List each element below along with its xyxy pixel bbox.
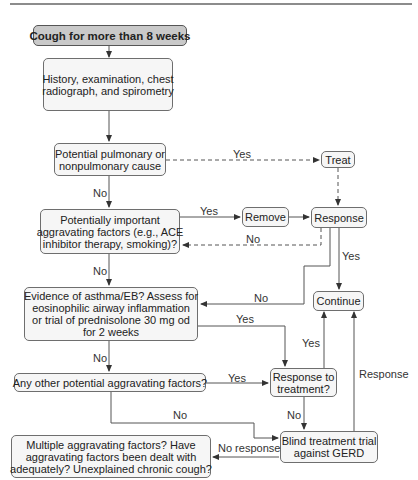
node-text: Response to xyxy=(273,371,335,383)
edge-label-pulmonary-yes: Yes xyxy=(233,148,251,160)
node-text: Multiple aggravating factors? Have xyxy=(26,439,195,451)
edge-label-gerd-no-response: No response xyxy=(218,442,280,454)
edge-label-treatment-yes: Yes xyxy=(302,337,320,349)
node-other-factors: Any other potential aggravating factors? xyxy=(14,373,206,392)
edge-label-aggravating-no: No xyxy=(93,265,107,277)
edge-label-response-yes: Yes xyxy=(342,250,360,262)
node-continue: Continue xyxy=(313,291,364,311)
node-text: against GERD xyxy=(294,447,364,459)
edge-label-treatment-no: No xyxy=(287,409,301,421)
node-text: Response xyxy=(314,212,364,224)
node-text: aggravating factors been dealt with xyxy=(26,451,197,463)
node-text: Evidence of asthma/EB? Assess for xyxy=(24,290,198,302)
edge-label-asthma-no: No xyxy=(93,352,107,364)
edge-label-other-yes: Yes xyxy=(228,372,246,384)
node-text: aggravating factors (e.g., ACE xyxy=(37,226,184,238)
edge-label-response-asthma-no: No xyxy=(254,292,268,304)
edge-label-gerd-response: Response xyxy=(359,368,409,380)
node-history: History, examination, chest radiograph, … xyxy=(43,58,173,111)
edge-label-pulmonary-no: No xyxy=(93,187,107,199)
node-text: eosinophilic airway inflammation xyxy=(32,302,190,314)
node-text: Cough for more than 8 weeks xyxy=(29,30,190,42)
node-aggravating-factors: Potentially important aggravating factor… xyxy=(40,209,180,254)
node-text: or trial of prednisolone 30 mg od xyxy=(32,314,190,326)
node-gerd-trial: Blind treatment trial against GERD xyxy=(280,431,378,463)
node-text: adequately? Unexplained chronic cough? xyxy=(10,463,212,475)
node-text: Remove xyxy=(245,211,286,223)
edge-label-asthma-yes: Yes xyxy=(236,313,254,325)
node-text: radiograph, and spirometry xyxy=(42,85,173,97)
node-treat: Treat xyxy=(321,151,355,168)
edge-label-response-no: No xyxy=(246,233,260,245)
node-text: nonpulmonary cause xyxy=(59,160,161,172)
node-asthma-evidence: Evidence of asthma/EB? Assess for eosino… xyxy=(24,287,198,341)
edge-label-other-no: No xyxy=(173,409,187,421)
node-text: Potential pulmonary or xyxy=(55,148,165,160)
node-text: inhibitor therapy, smoking)? xyxy=(43,238,177,250)
node-text: Treat xyxy=(325,154,350,166)
node-cough-start: Cough for more than 8 weeks xyxy=(33,25,187,46)
node-response: Response xyxy=(311,207,367,228)
node-text: Any other potential aggravating factors? xyxy=(13,377,207,389)
node-text: Continue xyxy=(316,295,360,307)
edge-label-aggravating-yes: Yes xyxy=(200,205,218,217)
node-text: Blind treatment trial xyxy=(282,435,377,447)
node-response-to-treatment: Response to treatment? xyxy=(270,368,337,397)
node-text: for 2 weeks xyxy=(83,326,139,338)
node-pulmonary-cause: Potential pulmonary or nonpulmonary caus… xyxy=(54,143,166,176)
edge-other-gerd xyxy=(111,391,278,438)
edge-asthma-treatment xyxy=(198,326,285,366)
node-multiple-factors: Multiple aggravating factors? Have aggra… xyxy=(11,435,211,478)
node-text: Potentially important xyxy=(60,214,160,226)
node-remove: Remove xyxy=(242,207,289,227)
node-text: History, examination, chest xyxy=(42,73,173,85)
node-text: treatment? xyxy=(277,383,330,395)
